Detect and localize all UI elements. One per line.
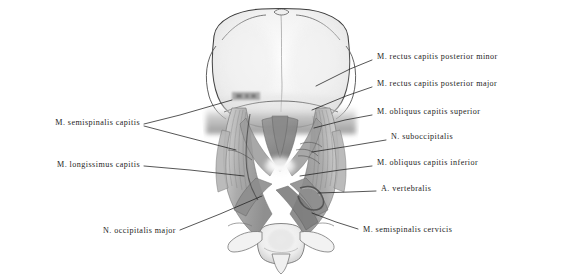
transverse-process-left: [228, 231, 262, 252]
vertebral-foramen-shade: [268, 229, 294, 251]
transverse-process-right: [300, 231, 334, 252]
label-longissimus-capitis: M. longissimus capitis: [57, 161, 140, 169]
muscle-field: [206, 104, 356, 236]
external-occipital-protuberance: [274, 9, 289, 15]
anatomy-illustration: [0, 0, 562, 280]
label-suboccipitalis: N. suboccipitalis: [391, 133, 453, 141]
label-arteria-vertebralis: A. vertebralis: [381, 185, 431, 193]
label-rectus-capitis-posterior-minor: M. rectus capitis posterior minor: [377, 53, 498, 61]
label-obliquus-capitis-inferior: M. obliquus capitis inferior: [377, 159, 478, 167]
label-semispinalis-capitis: M. semispinalis capitis: [55, 119, 140, 127]
spinous-process: [272, 254, 290, 274]
bone-inscription-smudge: [232, 92, 260, 100]
figure-canvas: M. rectus capitis posterior minorM. rect…: [0, 0, 562, 280]
cervical-vertebra-group: [228, 223, 334, 274]
label-obliquus-capitis-superior: M. obliquus capitis superior: [377, 108, 480, 116]
label-occipitalis-major: N. occipitalis major: [103, 227, 176, 235]
label-rectus-capitis-posterior-major: M. rectus capitis posterior major: [377, 80, 497, 88]
label-semispinalis-cervicis: M. semispinalis cervicis: [363, 226, 452, 234]
